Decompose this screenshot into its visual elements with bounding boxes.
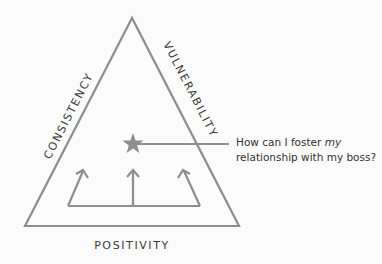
question-line-1: How can I foster my xyxy=(236,135,376,150)
arrow-right-head xyxy=(178,170,190,178)
label-consistency: CONSISTENCY xyxy=(41,71,96,162)
question-emphasis: my xyxy=(325,136,341,148)
question-prefix: How can I foster xyxy=(236,136,325,148)
label-positivity: POSITIVITY xyxy=(94,239,170,252)
question-text: How can I foster my relationship with my… xyxy=(236,135,376,165)
upward-arrows xyxy=(68,170,200,206)
arrow-right-shaft xyxy=(184,171,200,206)
triangle-diagram: CONSISTENCY VULNERABILITY POSITIVITY xyxy=(0,0,382,264)
question-line-2: relationship with my boss? xyxy=(236,150,376,165)
arrow-left-shaft xyxy=(68,171,83,206)
